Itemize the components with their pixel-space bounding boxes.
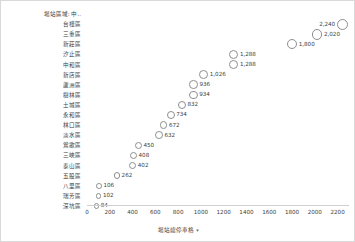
category-axis-label: 土城區 (1, 100, 81, 110)
value-axis-title[interactable]: 場站總停車格▾ (1, 226, 355, 234)
data-point-value-label: 2,240 (319, 21, 335, 28)
category-axis-label: 新店區 (1, 70, 81, 80)
value-axis-tick-label: 800 (173, 208, 184, 216)
data-point-value-label: 1,288 (240, 61, 256, 68)
bubble-chart-panel: 場站區域: 中..台樺區三重區新莊區汐止區中和區新店區蘆洲區樹林區土城區永和區林… (0, 0, 355, 242)
value-axis-tick-label: 200 (104, 208, 115, 216)
data-point-value-label: 672 (169, 122, 180, 129)
data-point-value-label: 1,800 (299, 41, 315, 48)
data-point-value-label: 1,026 (210, 71, 226, 78)
value-axis-tick-label: 2200 (330, 208, 344, 216)
data-point-value-label: 450 (143, 142, 154, 149)
category-axis-label: 新莊區 (1, 39, 81, 49)
data-point[interactable] (130, 152, 137, 159)
data-point-value-label: 262 (122, 172, 133, 179)
data-point[interactable] (312, 29, 323, 40)
data-point[interactable] (189, 80, 198, 89)
data-point[interactable] (229, 60, 238, 69)
value-axis-tick-label: 400 (127, 208, 138, 216)
category-axis-label: 三重區 (1, 29, 81, 39)
data-point-value-label: 1,288 (240, 51, 256, 58)
data-point[interactable] (114, 172, 121, 179)
category-axis-label: 瑞芳區 (1, 191, 81, 201)
plot-area: 2,2402,0201,8001,2881,2881,0269369348327… (87, 1, 349, 205)
value-axis-title-label: 場站總停車格 (158, 227, 194, 233)
category-axis-label: 八里區 (1, 181, 81, 191)
value-axis-tick-label: 0 (85, 208, 89, 216)
data-point-value-label: 402 (138, 162, 149, 169)
category-axis-label: 鶯歌區 (1, 140, 81, 150)
value-axis-tick-label: 1000 (194, 208, 208, 216)
value-axis: 0200400600800100012001400160018002000220… (87, 205, 349, 219)
data-point[interactable] (160, 121, 168, 129)
value-axis-tick-label: 2000 (308, 208, 322, 216)
category-axis-label: 淡水區 (1, 130, 81, 140)
data-point-value-label: 408 (139, 152, 150, 159)
category-axis-label: 泰山區 (1, 161, 81, 171)
data-point-value-label: 2,020 (324, 31, 340, 38)
data-point[interactable] (155, 131, 163, 139)
value-axis-tick-label: 1400 (239, 208, 253, 216)
data-point[interactable] (167, 111, 175, 119)
data-point[interactable] (96, 183, 102, 189)
data-point-value-label: 934 (199, 91, 210, 98)
data-point-value-label: 832 (187, 101, 198, 108)
category-axis: 場站區域: 中..台樺區三重區新莊區汐止區中和區新店區蘆洲區樹林區土城區永和區林… (1, 1, 87, 205)
value-axis-tick-label: 1800 (285, 208, 299, 216)
category-axis-label: 台樺區 (1, 19, 81, 29)
data-point[interactable] (287, 39, 297, 49)
value-axis-tick-label: 1200 (217, 208, 231, 216)
data-point[interactable] (337, 19, 348, 30)
data-point-value-label: 632 (164, 132, 175, 139)
data-point-value-label: 936 (199, 81, 210, 88)
category-axis-header[interactable]: 場站區域: 中.. (1, 9, 81, 19)
data-point[interactable] (129, 162, 136, 169)
category-axis-label: 永和區 (1, 110, 81, 120)
category-axis-label: 林口區 (1, 120, 81, 130)
data-point-value-label: 102 (103, 192, 114, 199)
category-axis-label: 蘆洲區 (1, 80, 81, 90)
chevron-down-icon: ▾ (194, 227, 199, 233)
data-point[interactable] (229, 50, 238, 59)
data-point[interactable] (96, 193, 102, 199)
category-axis-label: 三峽區 (1, 150, 81, 160)
category-axis-label: 中和區 (1, 60, 81, 70)
category-axis-header-label: 場站區域: 中.. (44, 11, 81, 17)
data-point-value-label: 734 (176, 111, 187, 118)
category-axis-label: 深坑區 (1, 201, 81, 211)
category-axis-label: 汐止區 (1, 49, 81, 59)
value-axis-tick-label: 1600 (262, 208, 276, 216)
data-point[interactable] (135, 142, 142, 149)
category-axis-label: 樹林區 (1, 90, 81, 100)
data-point[interactable] (189, 91, 198, 100)
axis-line (87, 205, 349, 206)
value-axis-tick-label: 600 (150, 208, 161, 216)
category-axis-label: 五股區 (1, 171, 81, 181)
data-point[interactable] (199, 70, 208, 79)
data-point[interactable] (178, 101, 186, 109)
data-point-value-label: 106 (103, 182, 114, 189)
